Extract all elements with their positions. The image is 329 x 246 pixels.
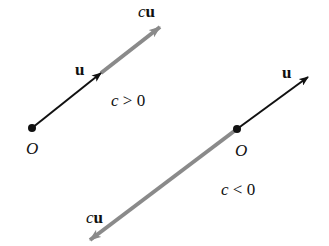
cu-label-right: cu xyxy=(86,209,103,226)
cu-vector-negative xyxy=(90,129,237,240)
vector-scaling-diagram: cu u c > 0 O u O c < 0 cu xyxy=(0,0,329,246)
cu-label-left: cu xyxy=(138,3,155,20)
u-label-right: u xyxy=(282,64,291,81)
condition-negative: c < 0 xyxy=(221,181,255,198)
u-vector-left xyxy=(32,73,101,128)
u-vector-right xyxy=(237,77,308,129)
vector-u: u xyxy=(146,2,155,21)
diagram-canvas xyxy=(0,0,329,246)
condition-positive: c > 0 xyxy=(111,92,145,109)
scalar-c: c xyxy=(86,208,94,227)
u-label-left: u xyxy=(75,61,84,78)
condition-rest: > 0 xyxy=(119,91,146,110)
origin-label-right: O xyxy=(235,142,247,159)
origin-point-right xyxy=(233,125,241,133)
left-panel-positive-scalar xyxy=(28,27,160,132)
scalar-c: c xyxy=(138,2,146,21)
origin-label-left: O xyxy=(26,140,38,157)
cu-vector-positive xyxy=(101,27,160,73)
vector-u: u xyxy=(94,208,103,227)
condition-rest: < 0 xyxy=(229,180,256,199)
origin-point-left xyxy=(28,124,36,132)
